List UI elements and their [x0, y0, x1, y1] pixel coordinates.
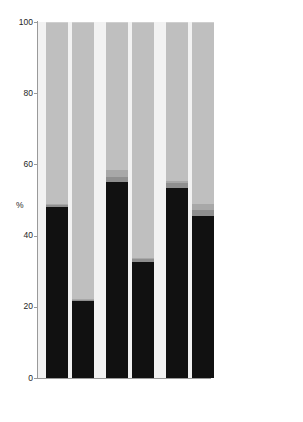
y-tick-label-60: 60	[0, 160, 33, 169]
y-tick-label-20: 20	[0, 302, 33, 311]
y-tick-mark-0	[34, 378, 37, 379]
bar-segment-firmicutes	[72, 23, 94, 299]
bar-segment-verrucomicrobia	[192, 204, 214, 210]
bar-segment-bacteroidetes	[166, 188, 188, 378]
bar-segment-other	[192, 22, 214, 23]
y-axis-line	[37, 21, 38, 379]
bar-segment-verrucomicrobia	[132, 258, 154, 259]
bar-segment-firmicutes	[106, 23, 128, 171]
bar-segment-other	[72, 22, 94, 23]
bar-segment-proteobacteria	[132, 259, 154, 262]
bar-segment-bacteroidetes	[72, 301, 94, 378]
bar-segment-proteobacteria	[106, 177, 128, 182]
bar-subject-C-S	[192, 22, 214, 378]
bar-segment-verrucomicrobia	[166, 181, 188, 183]
bar-segment-other	[46, 22, 68, 23]
chart-root: 020406080100 %	[0, 0, 303, 422]
bar-segment-bacteroidetes	[106, 182, 128, 378]
bar-subject-A-M	[46, 22, 68, 378]
bar-segment-firmicutes	[132, 23, 154, 258]
y-tick-mark-60	[34, 164, 37, 165]
bar-segment-proteobacteria	[46, 205, 68, 207]
bar-segment-other	[166, 22, 188, 23]
y-tick-label-40: 40	[0, 231, 33, 240]
y-tick-mark-80	[34, 93, 37, 94]
bar-segment-verrucomicrobia	[106, 170, 128, 176]
bar-segment-verrucomicrobia	[72, 299, 94, 300]
y-tick-label-80: 80	[0, 89, 33, 98]
bar-segment-firmicutes	[46, 23, 68, 204]
y-tick-mark-100	[34, 22, 37, 23]
y-tick-label-100: 100	[0, 18, 33, 27]
bar-segment-proteobacteria	[166, 183, 188, 188]
bar-segment-bacteroidetes	[132, 262, 154, 378]
bar-segment-other	[132, 22, 154, 23]
bar-segment-bacteroidetes	[46, 207, 68, 378]
bar-segment-other	[106, 22, 128, 23]
bar-subject-B-M	[106, 22, 128, 378]
y-tick-mark-20	[34, 307, 37, 308]
bar-segment-proteobacteria	[192, 210, 214, 216]
bar-segment-proteobacteria	[72, 300, 94, 301]
bar-subject-A-S	[72, 22, 94, 378]
bar-subject-C-M	[166, 22, 188, 378]
bar-segment-verrucomicrobia	[46, 204, 68, 205]
y-axis-title: %	[16, 201, 24, 210]
y-tick-mark-40	[34, 236, 37, 237]
bar-subject-B-S	[132, 22, 154, 378]
y-tick-label-0: 0	[0, 374, 33, 383]
x-axis-line	[37, 378, 211, 379]
bar-segment-bacteroidetes	[192, 216, 214, 378]
bar-segment-firmicutes	[192, 23, 214, 204]
bar-segment-firmicutes	[166, 23, 188, 181]
